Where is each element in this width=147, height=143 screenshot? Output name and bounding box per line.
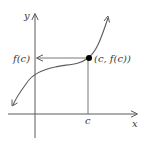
y-axis-label: y: [23, 10, 30, 21]
c-label: c: [85, 115, 91, 126]
x-axis-label: x: [132, 118, 138, 129]
function-graph: y x f(c) (c, f(c)) c: [0, 0, 147, 143]
point-c-fc: [86, 55, 92, 61]
point-label: (c, f(c)): [94, 53, 131, 64]
fc-label: f(c): [12, 53, 30, 64]
